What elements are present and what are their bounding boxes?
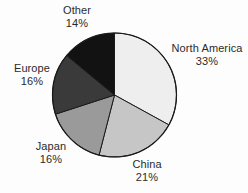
pie-chart-figure: Other 14% North America 33% Europe 16% J…: [0, 0, 248, 193]
pie-label-other-value: 14%: [46, 17, 108, 30]
pie-label-other-name: Other: [46, 4, 108, 17]
pie-slices: [52, 33, 176, 157]
pie-label-europe: Europe 16%: [2, 62, 62, 88]
pie-label-north-america-name: North America: [168, 42, 246, 55]
pie-label-europe-name: Europe: [2, 62, 62, 75]
pie-label-china: China 21%: [118, 158, 176, 184]
pie-label-japan: Japan 16%: [22, 140, 80, 166]
pie-label-china-name: China: [118, 158, 176, 171]
pie-label-north-america-value: 33%: [168, 55, 246, 68]
pie-label-japan-name: Japan: [22, 140, 80, 153]
pie-label-europe-value: 16%: [2, 75, 62, 88]
pie-label-other: Other 14%: [46, 4, 108, 30]
pie-label-japan-value: 16%: [22, 153, 80, 166]
pie-label-china-value: 21%: [118, 171, 176, 184]
pie-label-north-america: North America 33%: [168, 42, 246, 68]
